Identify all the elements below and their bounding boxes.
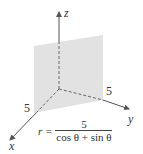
equation-lhs: r =	[38, 125, 52, 137]
equation-fraction: 5 cos θ + sin θ	[55, 118, 112, 143]
y-axis-label: y	[128, 113, 133, 125]
x-axis-label: x	[9, 140, 14, 152]
y-tick-label: 5	[106, 85, 112, 97]
x-tick-label: 5	[24, 102, 30, 114]
equation-numerator: 5	[81, 118, 87, 130]
x-axis	[10, 113, 36, 140]
z-axis-label: z	[64, 7, 69, 19]
equation-denominator: cos θ + sin θ	[56, 131, 111, 143]
plane-surface	[34, 35, 103, 113]
polar-equation: r = 5 cos θ + sin θ	[38, 118, 112, 143]
y-axis	[103, 100, 129, 109]
